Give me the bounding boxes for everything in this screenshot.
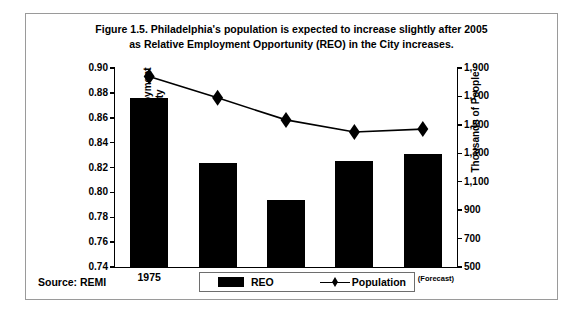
population-marker-1975 bbox=[144, 69, 155, 85]
source-note: Source: REMI bbox=[38, 276, 106, 288]
left-tick-label: 0.80 bbox=[89, 187, 108, 197]
right-tick-label: 1,300 bbox=[464, 148, 489, 158]
left-tick-label: 0.86 bbox=[89, 113, 108, 123]
left-tick-label: 0.76 bbox=[89, 237, 108, 247]
chart-legend: REO Population bbox=[199, 272, 415, 292]
figure-container: Figure 1.5. Philadelphia's population is… bbox=[25, 13, 558, 300]
right-tick-label: 1,500 bbox=[464, 120, 489, 130]
left-tick-label: 0.82 bbox=[89, 163, 108, 173]
left-tick-label: 0.78 bbox=[89, 212, 108, 222]
left-tick-label: 0.90 bbox=[89, 63, 108, 73]
right-tick-label: 1,100 bbox=[464, 177, 489, 187]
right-tick-mark bbox=[457, 238, 462, 240]
population-marker-1985 bbox=[212, 90, 223, 106]
right-tick-label: 700 bbox=[464, 234, 481, 244]
legend-item-population: Population bbox=[320, 276, 406, 288]
right-tick-label: 1,900 bbox=[464, 63, 489, 73]
right-tick-mark bbox=[457, 181, 462, 183]
bar-swatch-icon bbox=[218, 277, 244, 287]
left-tick-label: 0.88 bbox=[89, 88, 108, 98]
left-tick-label: 0.84 bbox=[89, 138, 108, 148]
population-marker-1995 bbox=[281, 112, 292, 128]
line-series-population bbox=[115, 68, 457, 267]
right-tick-mark bbox=[457, 209, 462, 211]
population-marker-2015 bbox=[417, 121, 428, 137]
plot-area: Relative Employment Opportunity Thousand… bbox=[114, 68, 458, 268]
population-marker-2005 bbox=[349, 124, 360, 140]
right-tick-label: 900 bbox=[464, 205, 481, 215]
right-tick-mark bbox=[457, 124, 462, 126]
right-tick-mark bbox=[457, 266, 462, 268]
right-tick-mark bbox=[457, 96, 462, 98]
right-tick-label: 1,700 bbox=[464, 91, 489, 101]
figure-title-line-1: Figure 1.5. Philadelphia's population is… bbox=[26, 22, 557, 37]
line-diamond-swatch-icon bbox=[320, 277, 350, 287]
legend-label-population: Population bbox=[352, 276, 406, 288]
legend-item-reo: REO bbox=[218, 276, 274, 288]
legend-label-reo: REO bbox=[251, 276, 274, 288]
right-tick-mark bbox=[457, 153, 462, 155]
x-tick-note: (Forecast) bbox=[418, 274, 454, 283]
x-tick-year: 1975 bbox=[138, 271, 161, 283]
right-tick-mark bbox=[457, 67, 462, 69]
